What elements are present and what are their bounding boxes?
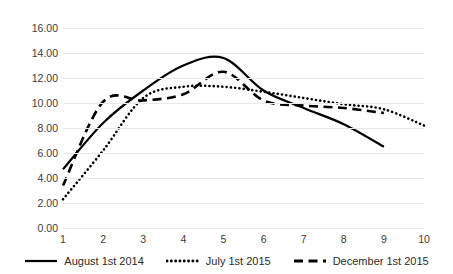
gridline <box>63 53 424 54</box>
gridline <box>63 228 424 229</box>
y-tick-label: 8.00 <box>6 123 58 134</box>
y-axis: 16.0014.0012.0010.008.006.004.002.000.00 <box>0 0 58 274</box>
x-tick-label: 1 <box>48 234 78 245</box>
y-tick-label: 2.00 <box>6 198 58 209</box>
gridline <box>63 203 424 204</box>
x-axis: 12345678910 <box>63 234 424 250</box>
gridline <box>63 178 424 179</box>
legend-swatch-dashed-icon <box>293 256 327 266</box>
y-tick-label: 16.00 <box>6 23 58 34</box>
gridline <box>63 78 424 79</box>
plot-area <box>63 28 424 228</box>
legend-label: December 1st 2015 <box>333 256 429 267</box>
x-tick-label: 3 <box>128 234 158 245</box>
legend-item[interactable]: July 1st 2015 <box>166 256 271 267</box>
y-tick-label: 14.00 <box>6 48 58 59</box>
gridline <box>63 28 424 29</box>
legend-swatch-solid-icon <box>24 256 58 266</box>
legend-swatch-dotted-icon <box>166 256 200 266</box>
y-tick-label: 10.00 <box>6 98 58 109</box>
gridline <box>63 128 424 129</box>
x-tick-label: 5 <box>208 234 238 245</box>
legend-label: August 1st 2014 <box>64 256 144 267</box>
x-tick-label: 9 <box>369 234 399 245</box>
y-tick-label: 4.00 <box>6 173 58 184</box>
chart-legend: August 1st 2014July 1st 2015December 1st… <box>0 252 453 270</box>
x-tick-label: 4 <box>168 234 198 245</box>
x-tick-label: 7 <box>289 234 319 245</box>
y-tick-label: 12.00 <box>6 73 58 84</box>
gridline <box>63 103 424 104</box>
legend-item[interactable]: December 1st 2015 <box>293 256 429 267</box>
x-tick-label: 6 <box>249 234 279 245</box>
x-tick-label: 2 <box>88 234 118 245</box>
y-tick-label: 0.00 <box>6 223 58 234</box>
x-tick-label: 10 <box>409 234 439 245</box>
gridline <box>63 153 424 154</box>
legend-item[interactable]: August 1st 2014 <box>24 256 144 267</box>
x-tick-label: 8 <box>329 234 359 245</box>
y-tick-label: 6.00 <box>6 148 58 159</box>
line-chart: 16.0014.0012.0010.008.006.004.002.000.00… <box>0 0 453 274</box>
legend-label: July 1st 2015 <box>206 256 271 267</box>
